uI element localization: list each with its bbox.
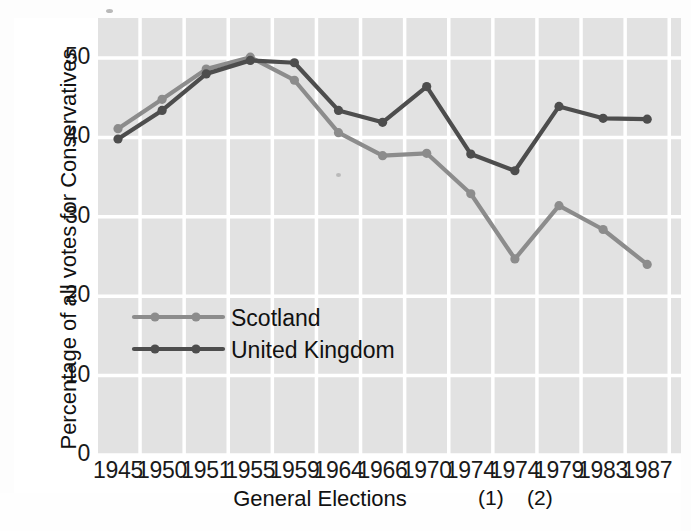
series-line: [118, 57, 647, 264]
data-point: [202, 69, 211, 78]
data-point: [510, 254, 519, 263]
x-axis-title: General Elections: [180, 486, 460, 512]
data-point: [378, 151, 387, 160]
data-point: [246, 56, 255, 65]
data-point: [643, 115, 652, 124]
data-point: [554, 201, 563, 210]
data-point: [290, 58, 299, 67]
data-point: [554, 102, 563, 111]
data-point: [422, 82, 431, 91]
data-point: [334, 128, 343, 137]
data-point: [334, 106, 343, 115]
footnote-marker-2: (2): [527, 486, 553, 510]
legend-marks: [134, 312, 223, 353]
data-series-layer: [113, 53, 651, 269]
y-axis-title: Percentage of all votes for Conservative…: [56, 34, 82, 464]
data-point: [466, 149, 475, 158]
footnote-marker-1: (1): [478, 486, 504, 510]
legend-swatch-marker: [191, 344, 200, 353]
data-point: [158, 95, 167, 104]
chart-canvas: [0, 0, 691, 531]
data-point: [422, 149, 431, 158]
x-tick-label: 1987: [619, 457, 675, 484]
data-point: [466, 189, 475, 198]
data-point: [290, 76, 299, 85]
data-point: [378, 118, 387, 127]
data-point: [510, 166, 519, 175]
data-point: [643, 260, 652, 269]
data-point: [599, 225, 608, 234]
legend-swatch-marker: [191, 312, 200, 321]
legend-swatch-marker: [150, 344, 159, 353]
legend-label-scotland: Scotland: [231, 305, 321, 332]
data-point: [599, 114, 608, 123]
chart-figure: 50403020100 1945195019511955195919641966…: [0, 0, 691, 531]
data-point: [113, 134, 122, 143]
data-point: [113, 124, 122, 133]
data-point: [158, 106, 167, 115]
legend-label-united-kingdom: United Kingdom: [231, 337, 395, 364]
legend-swatch-marker: [150, 312, 159, 321]
